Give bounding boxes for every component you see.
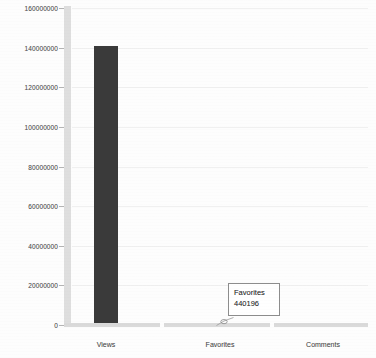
y-axis-line	[64, 6, 71, 327]
y-tick-label: 120000000	[2, 84, 58, 91]
tooltip-pointer-icon	[216, 316, 234, 326]
x-tick-label-comments: Comments	[306, 341, 340, 348]
y-tick-label: 100000000	[2, 123, 58, 130]
y-tick-label: 60000000	[2, 203, 58, 210]
tooltip-title: Favorites	[234, 287, 279, 298]
y-tick-label: 80000000	[2, 163, 58, 170]
y-axis-labels: 160000000 140000000 120000000 100000000 …	[0, 0, 58, 358]
y-tick-label: 40000000	[2, 242, 58, 249]
y-tick-label: 0	[2, 322, 58, 329]
tooltip-value: 440196	[234, 298, 279, 309]
x-axis-segment	[64, 323, 160, 327]
x-tick-label-favorites: Favorites	[206, 341, 235, 348]
y-tick-label: 160000000	[2, 5, 58, 12]
y-tick-label: 140000000	[2, 44, 58, 51]
x-axis-segment	[274, 323, 368, 327]
gridline	[72, 8, 368, 9]
bar-views[interactable]	[94, 46, 118, 325]
y-tick-label: 20000000	[2, 282, 58, 289]
data-point-tooltip: Favorites 440196	[228, 283, 280, 316]
bar-chart: 160000000 140000000 120000000 100000000 …	[0, 0, 376, 358]
plot-area	[72, 8, 368, 325]
x-tick-label-views: Views	[97, 341, 116, 348]
